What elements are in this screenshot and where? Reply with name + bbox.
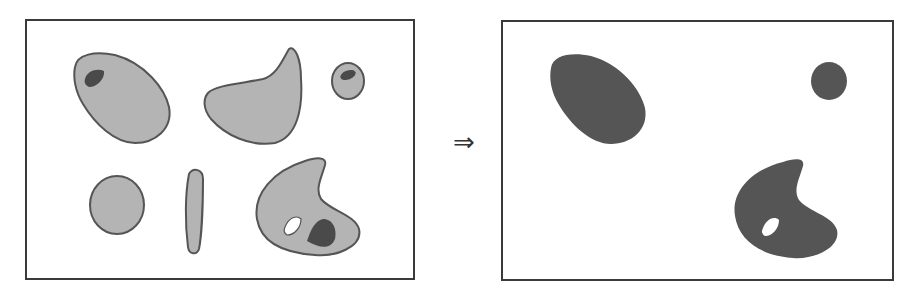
hook-blob-dark [734, 159, 837, 258]
horn-blob-light [205, 48, 302, 143]
before-panel [25, 19, 415, 280]
implies-arrow: ⇒ [446, 124, 482, 160]
egg-blob-dark [550, 54, 645, 144]
thin-rod-light [186, 170, 203, 253]
small-oval-dark [811, 62, 847, 100]
after-panel [501, 20, 894, 281]
after-shapes [501, 20, 894, 281]
small-oval-light [332, 63, 364, 99]
egg-blob-light [74, 53, 169, 143]
before-shapes [25, 19, 415, 280]
circle-light [90, 176, 144, 234]
